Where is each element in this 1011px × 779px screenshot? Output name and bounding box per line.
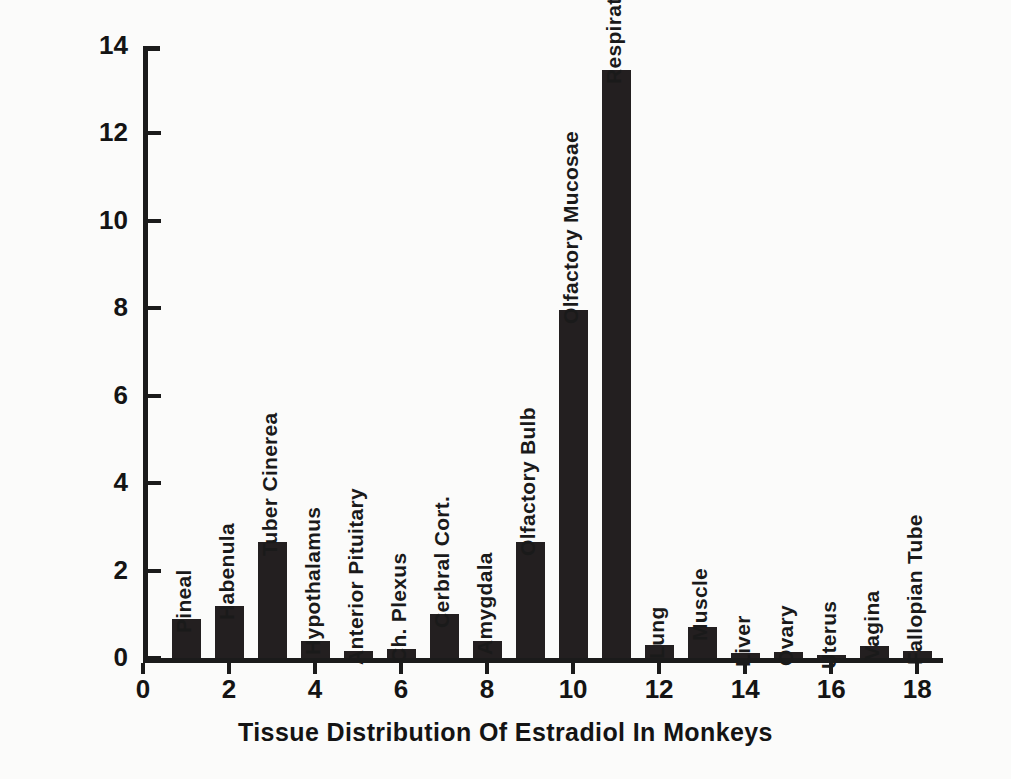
bar-label: Ovary	[774, 605, 798, 666]
bar	[602, 70, 631, 658]
y-tick	[148, 394, 161, 398]
x-tick-label: 18	[887, 676, 947, 702]
bar-label: Habenula	[215, 523, 239, 620]
bar-label: Tuber Cinerea	[258, 413, 282, 557]
y-tick	[148, 569, 161, 573]
x-tick-label: 12	[629, 676, 689, 702]
bar	[516, 542, 545, 658]
x-tick	[399, 663, 403, 674]
y-tick-label: 8	[68, 294, 128, 320]
y-tick	[148, 656, 161, 660]
y-tick	[148, 481, 161, 485]
bar-label: Olfactory Bulb	[516, 407, 540, 556]
y-tick-label: 0	[68, 644, 128, 670]
y-tick-label: 6	[68, 382, 128, 408]
bar	[559, 310, 588, 658]
bar-label: Lung	[645, 606, 669, 659]
bar	[258, 542, 287, 658]
bar-label: Hypothalamus	[301, 506, 325, 654]
x-tick	[227, 663, 231, 674]
x-tick-label: 6	[371, 676, 431, 702]
y-tick	[148, 219, 161, 223]
y-tick-label: 2	[68, 557, 128, 583]
x-tick	[313, 663, 317, 674]
y-tick	[148, 306, 161, 310]
y-axis-line	[143, 46, 148, 658]
x-tick	[571, 663, 575, 674]
bar-label: Anterior Pituitary	[344, 488, 368, 665]
y-tick-label: 10	[68, 207, 128, 233]
bar-label: Uterus	[817, 601, 841, 669]
x-tick-label: 2	[199, 676, 259, 702]
bar-label: Pineal	[172, 569, 196, 633]
bar-label: Amygdala	[473, 552, 497, 655]
bar-label: Fallopian Tube	[903, 514, 927, 665]
bar-label: Cerbral Cort.	[430, 496, 454, 628]
y-tick-label: 14	[68, 32, 128, 58]
y-tick	[148, 131, 161, 135]
bar-label: Liver	[731, 615, 755, 667]
bar-label: Ch. Plexus	[387, 553, 411, 663]
y-tick-label: 12	[68, 119, 128, 145]
bar-label: Muscle	[688, 568, 712, 641]
y-axis-top-nub	[143, 46, 160, 51]
x-tick	[485, 663, 489, 674]
plot-area: 02468101214 024681012141618 PinealHabenu…	[143, 46, 943, 658]
y-tick-label: 4	[68, 469, 128, 495]
x-tick	[657, 663, 661, 674]
x-tick-label: 16	[801, 676, 861, 702]
x-tick-label: 8	[457, 676, 517, 702]
x-axis-title: Tissue Distribution Of Estradiol In Monk…	[0, 718, 1011, 747]
x-tick	[141, 663, 145, 674]
x-tick-label: 14	[715, 676, 775, 702]
bar-label: Olfactory Mucosae	[559, 131, 583, 324]
x-tick-label: 10	[543, 676, 603, 702]
bar-chart-figure: (Nasal/Intravenous) Ratioactivity Ratio …	[0, 0, 1011, 779]
x-tick-label: 0	[113, 676, 173, 702]
bar-label: Vagina	[860, 591, 884, 661]
bar-label: Respiratory Mucosae	[602, 0, 626, 84]
x-tick-label: 4	[285, 676, 345, 702]
